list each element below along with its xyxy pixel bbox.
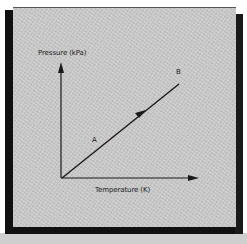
- x-axis-label: Temperature (K): [95, 186, 150, 194]
- x-axis-arrow-icon: [188, 175, 199, 181]
- direction-arrow-icon: [135, 110, 146, 118]
- proportional-line-a-to-b: [62, 84, 179, 178]
- y-axis-arrow-icon: [58, 62, 64, 73]
- pressure-temperature-graph: [0, 0, 247, 244]
- y-axis-label: Pressure (kPa): [38, 49, 86, 57]
- point-label-b: B: [176, 68, 181, 76]
- point-label-a: A: [92, 136, 97, 144]
